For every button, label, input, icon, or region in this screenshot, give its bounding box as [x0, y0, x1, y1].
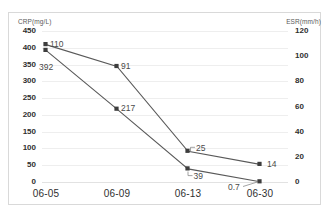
- crp-value-label-1: 217: [121, 104, 135, 113]
- gridline: [42, 148, 288, 149]
- axis-baseline: [42, 182, 288, 183]
- left-tick-150: 150: [0, 128, 36, 136]
- right-tick-0: 0: [295, 178, 329, 186]
- left-tick-350: 350: [0, 61, 36, 69]
- gridline: [42, 81, 288, 82]
- left-tick-300: 300: [0, 77, 36, 85]
- right-axis-title: ESR(mm/h): [286, 18, 321, 25]
- left-tick-200: 200: [0, 111, 36, 119]
- left-tick-250: 250: [0, 94, 36, 102]
- crp-value-label-3: 0.7: [228, 183, 240, 192]
- gridline: [42, 165, 288, 166]
- x-label-1: 06-09: [104, 188, 131, 199]
- right-tick-60: 60: [295, 103, 329, 111]
- left-tick-100: 100: [0, 144, 36, 152]
- x-label-0: 06-05: [33, 188, 60, 199]
- left-tick-400: 400: [0, 44, 36, 52]
- esr-value-label-1: 91: [121, 62, 130, 71]
- x-label-3: 06-30: [247, 188, 274, 199]
- left-tick-0: 0: [0, 178, 36, 186]
- right-tick-20: 20: [295, 153, 329, 161]
- gridline: [42, 115, 288, 116]
- plot-area: [42, 31, 288, 182]
- crp-value-label-0: 392: [39, 63, 53, 72]
- right-tick-40: 40: [295, 128, 329, 136]
- esr-value-label-3: 14: [267, 160, 276, 169]
- right-tick-120: 120: [295, 27, 329, 35]
- esr-value-label-0: 110: [50, 40, 64, 49]
- left-tick-450: 450: [0, 27, 36, 35]
- gridline: [42, 48, 288, 49]
- left-tick-50: 50: [0, 161, 36, 169]
- gridline: [42, 132, 288, 133]
- crp-value-label-2: 39: [194, 172, 203, 181]
- right-tick-80: 80: [295, 77, 329, 85]
- esr-value-label-2: 25: [196, 144, 205, 153]
- gridline: [42, 65, 288, 66]
- chart-container: CRP(mg/L) ESR(mm/h) 450 400 350 300 250 …: [0, 0, 331, 219]
- gridline: [42, 98, 288, 99]
- gridline: [42, 31, 288, 32]
- right-tick-100: 100: [295, 52, 329, 60]
- x-label-2: 06-13: [175, 188, 202, 199]
- left-axis-title: CRP(mg/L): [18, 18, 51, 25]
